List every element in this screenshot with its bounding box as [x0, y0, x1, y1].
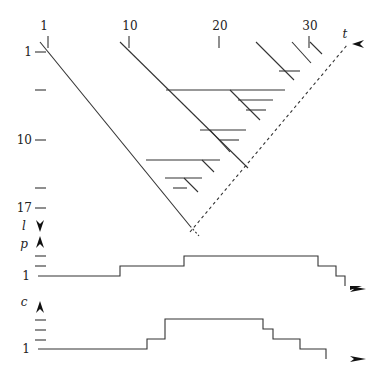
diagonal-10	[120, 42, 248, 168]
diagonal-b	[292, 42, 311, 63]
c-arrow-up-icon	[36, 301, 44, 313]
l-arrow-down-icon	[36, 220, 44, 232]
l-axis-label: l	[22, 219, 26, 233]
p-arrow-up-icon	[36, 236, 44, 248]
c-axis-label: c	[21, 295, 28, 309]
t-axis-label: t	[343, 27, 348, 41]
p-baseline-label: 1	[22, 269, 30, 283]
c-x-arrow-icon	[350, 356, 366, 362]
left-label-10: 10	[17, 133, 32, 147]
diagram-canvas: 1 10 20 30 t 1 10 17 l p 1 c 1	[0, 0, 384, 376]
c-baseline-label: 1	[22, 342, 30, 356]
left-label-17: 17	[17, 201, 32, 215]
diagonal-c	[310, 42, 322, 54]
diagonal-a	[256, 42, 294, 80]
top-label-1: 1	[40, 19, 48, 33]
c-step-curve	[38, 319, 326, 359]
top-label-30: 30	[302, 19, 317, 33]
left-label-1: 1	[24, 45, 32, 59]
branch-diag	[230, 90, 260, 120]
top-label-10: 10	[122, 19, 137, 33]
branch-diag	[184, 178, 198, 192]
branch-diag	[210, 130, 230, 152]
branch-diag	[202, 160, 214, 172]
t-arrow-icon	[352, 40, 364, 48]
dashed-frontier	[190, 44, 348, 232]
diagonal-1	[40, 42, 190, 226]
top-label-20: 20	[212, 19, 227, 33]
p-axis-label: p	[20, 237, 28, 251]
p-step-curve	[38, 256, 345, 286]
